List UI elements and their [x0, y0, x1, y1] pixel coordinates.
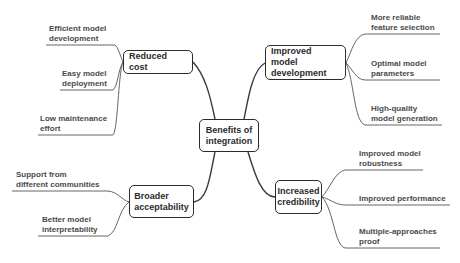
leaf-high-quality-model-generation[interactable]: High-quality model generation [371, 104, 438, 124]
link-center-credibility [248, 152, 275, 197]
link-center-broader [194, 152, 215, 202]
leaf-support-from-different-communities[interactable]: Support from different communities [16, 170, 100, 190]
link-center-reduced-cost [193, 62, 215, 119]
branch-label: Broader acceptability [134, 191, 189, 213]
leaf-multiple-approaches-proof[interactable]: Multiple-approaches proof [359, 227, 437, 247]
branch-node-improved-model-development[interactable]: Improved model development [265, 45, 346, 80]
leaf-improved-model-robustness[interactable]: Improved model robustness [359, 149, 421, 169]
leaf-easy-model-deployment[interactable]: Easy model deployment [62, 69, 107, 89]
leaf-efficient-model-development[interactable]: Efficient model development [49, 24, 106, 44]
branch-node-increased-credibility[interactable]: Increased credibility [275, 180, 322, 214]
leaf-improved-performance[interactable]: Improved performance [359, 194, 446, 204]
branch-label: Increased credibility [277, 186, 320, 208]
branch-node-reduced-cost[interactable]: Reduced cost [123, 50, 193, 74]
central-node-label: Benefits of integration [206, 125, 253, 147]
branch-node-broader-acceptability[interactable]: Broader acceptability [129, 185, 194, 218]
leaf-low-maintenance-effort[interactable]: Low maintenance effort [40, 114, 107, 134]
leaf-optimal-model-parameters[interactable]: Optimal model parameters [371, 59, 427, 79]
central-node[interactable]: Benefits of integration [199, 119, 259, 152]
branch-label: Improved model development [271, 46, 340, 79]
branch-label: Reduced cost [129, 51, 187, 73]
leaf-more-reliable-feature-selection[interactable]: More reliable feature selection [371, 13, 435, 33]
link-center-improved-dev [244, 63, 265, 119]
leaf-better-model-interpretability[interactable]: Better model interpretability [42, 215, 98, 235]
